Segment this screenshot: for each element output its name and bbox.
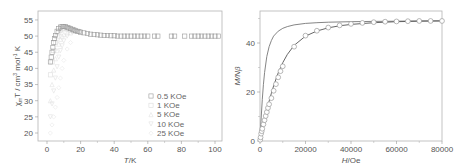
left-x-tick-label: 80 xyxy=(177,145,186,154)
data-point xyxy=(260,126,265,131)
right-y-tick-label: 40 xyxy=(246,39,255,48)
data-point xyxy=(428,19,433,24)
right-chart-magnetization-vs-field: 02040 020000400006000080000 M/Nβ H/Oe xyxy=(233,11,454,165)
figure: 2025303540455055 020406080100 χmT / cm3 … xyxy=(0,0,463,167)
data-point xyxy=(278,69,283,74)
data-point xyxy=(52,68,56,72)
data-point xyxy=(65,47,69,51)
data-point xyxy=(292,44,297,49)
left-y-tick-label: 55 xyxy=(24,16,33,25)
left-x-axis: 020406080100 xyxy=(45,141,222,154)
data-point xyxy=(276,75,281,80)
data-point xyxy=(314,28,319,33)
data-point xyxy=(326,25,331,30)
data-point xyxy=(280,64,285,69)
left-y-axis: 2025303540455055 xyxy=(24,16,38,138)
data-point xyxy=(48,60,52,64)
data-point xyxy=(58,76,62,80)
data-point xyxy=(49,55,53,59)
fit-curve-line xyxy=(260,21,442,141)
legend-label: 0.5 KOe xyxy=(157,92,187,101)
legend-marker-icon xyxy=(149,94,153,98)
left-y-tick-label: 35 xyxy=(24,80,33,89)
left-data-series xyxy=(48,24,220,135)
right-x-tick-label: 20000 xyxy=(294,145,317,154)
data-point xyxy=(48,131,52,135)
data-point xyxy=(50,50,54,54)
data-point xyxy=(60,66,64,70)
data-point xyxy=(383,19,388,24)
data-point xyxy=(62,58,66,62)
data-point xyxy=(371,20,376,25)
data-point xyxy=(267,102,272,107)
data-point xyxy=(349,21,354,26)
data-point xyxy=(405,19,410,24)
left-y-tick-label: 45 xyxy=(24,48,33,57)
right-x-axis: 020000400006000080000 xyxy=(258,141,454,154)
data-point xyxy=(53,76,57,80)
left-x-tick-label: 40 xyxy=(110,145,119,154)
left-y-tick-label: 25 xyxy=(24,113,33,122)
data-point xyxy=(337,23,342,28)
fit-curve-line xyxy=(260,21,442,141)
data-point xyxy=(53,105,57,109)
data-point xyxy=(57,55,61,59)
left-chart-chi-t-vs-t: 2025303540455055 020406080100 χmT / cm3 … xyxy=(12,11,222,165)
data-point xyxy=(57,86,61,90)
data-point xyxy=(440,19,445,24)
data-point xyxy=(269,96,274,101)
right-y-tick-label: 0 xyxy=(251,137,256,146)
data-point xyxy=(303,33,308,38)
data-point xyxy=(55,65,59,69)
data-point xyxy=(394,19,399,24)
left-x-axis-title: T/K xyxy=(124,156,137,165)
left-y-tick-label: 20 xyxy=(24,129,33,138)
right-y-axis: 02040 xyxy=(246,19,260,146)
left-y-tick-label: 50 xyxy=(24,32,33,41)
data-point xyxy=(52,89,56,93)
left-x-tick-label: 0 xyxy=(45,145,50,154)
data-point xyxy=(50,82,54,86)
right-y-tick-label: 20 xyxy=(246,88,255,97)
data-point xyxy=(50,123,54,127)
data-point xyxy=(68,40,72,44)
right-x-tick-label: 80000 xyxy=(431,145,454,154)
legend-marker-icon xyxy=(149,122,153,126)
left-x-tick-label: 100 xyxy=(208,145,222,154)
data-point xyxy=(274,82,279,87)
right-x-tick-label: 40000 xyxy=(340,145,363,154)
data-point xyxy=(183,34,187,38)
legend-label: 5 KOe xyxy=(157,110,180,119)
legend-marker-icon xyxy=(149,103,153,107)
left-y-tick-label: 40 xyxy=(24,64,33,73)
left-x-tick-label: 60 xyxy=(143,145,152,154)
data-point xyxy=(52,40,56,44)
left-y-axis-title: χmT / cm3 mol-1 K xyxy=(12,45,23,106)
right-x-tick-label: 60000 xyxy=(385,145,408,154)
data-point xyxy=(48,73,52,77)
data-point xyxy=(271,88,276,93)
legend-label: 10 KOe xyxy=(157,120,185,129)
left-y-tick-label: 30 xyxy=(24,97,33,106)
data-point xyxy=(417,19,422,24)
right-plot-frame xyxy=(260,11,442,141)
legend-label: 25 KOe xyxy=(157,129,185,138)
legend-marker-icon xyxy=(149,113,153,117)
legend-label: 1 KOe xyxy=(157,101,180,110)
data-point xyxy=(53,40,57,44)
right-data-series xyxy=(258,19,445,143)
right-x-tick-label: 0 xyxy=(258,145,263,154)
left-legend: 0.5 KOe1 KOe5 KOe10 KOe25 KOe xyxy=(149,92,187,138)
right-y-axis-title: M/Nβ xyxy=(233,66,242,86)
data-point xyxy=(55,95,59,99)
legend-marker-icon xyxy=(149,131,153,135)
left-x-tick-label: 20 xyxy=(76,145,85,154)
right-x-axis-title: H/Oe xyxy=(342,156,361,165)
data-point xyxy=(360,21,365,26)
